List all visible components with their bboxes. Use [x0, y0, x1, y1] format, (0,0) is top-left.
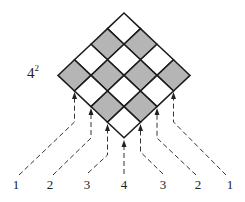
count-label: 1 — [13, 177, 20, 192]
rotated-checkerboard-grid — [58, 13, 190, 138]
arrowhead-icon — [138, 124, 143, 131]
dashed-arrow-line — [88, 130, 108, 173]
checkerboard-diagram: 42 1 2 3 4 3 2 1 — [0, 0, 245, 202]
dashed-arrow-line — [141, 130, 164, 174]
count-label: 4 — [121, 177, 128, 192]
count-label: 3 — [160, 177, 167, 192]
count-label: 3 — [84, 177, 91, 192]
bottom-count-labels: 1 2 3 4 3 2 1 — [13, 177, 234, 192]
square-label: 42 — [27, 63, 39, 81]
count-label: 2 — [47, 177, 54, 192]
count-label: 1 — [227, 177, 234, 192]
arrowhead-icon — [122, 140, 127, 147]
count-label: 2 — [195, 177, 202, 192]
dashed-arrow-line — [19, 98, 75, 175]
dashed-arrow-line — [174, 98, 227, 175]
square-label-exponent: 2 — [35, 63, 40, 73]
dashed-arrow-line — [53, 114, 91, 175]
arrowhead-icon — [105, 124, 110, 131]
dashed-arrow-line — [157, 114, 196, 175]
